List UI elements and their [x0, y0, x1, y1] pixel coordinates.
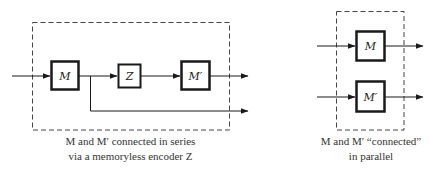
- series-block-m-label: M: [58, 70, 71, 83]
- parallel-caption-line2: in parallel: [312, 149, 430, 164]
- parallel-caption: M and M′ “connected” in parallel: [312, 134, 430, 164]
- series-caption-line2: via a memoryless encoder Z: [32, 149, 229, 164]
- series-block-mprime-label: M′: [188, 70, 203, 83]
- parallel-diagram: M M′: [317, 12, 423, 131]
- series-caption-line1: M and M′ connected in series: [32, 134, 229, 149]
- parallel-block-m-label: M: [364, 40, 377, 53]
- parallel-caption-line1: M and M′ “connected”: [312, 134, 430, 149]
- series-diagram: M Z M′: [12, 23, 248, 131]
- series-caption: M and M′ connected in series via a memor…: [32, 134, 229, 164]
- parallel-block-mprime-label: M′: [363, 91, 378, 104]
- series-bypass-arrow: [91, 76, 249, 111]
- series-block-z-label: Z: [125, 70, 134, 83]
